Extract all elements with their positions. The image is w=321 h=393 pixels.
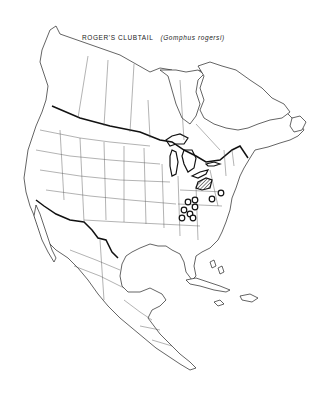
record-7 [190, 215, 196, 221]
hispaniola [240, 294, 258, 302]
cuba [186, 278, 230, 292]
record-2 [192, 197, 198, 203]
bahamas [210, 260, 224, 274]
map-title: ROGER'S CLUBTAIL (Gomphus rogersi) [82, 34, 225, 41]
north-america-map [0, 0, 321, 393]
record-1 [185, 199, 191, 205]
common-name: ROGER'S CLUBTAIL [82, 34, 153, 41]
record-6 [179, 215, 185, 221]
record-9 [218, 190, 224, 196]
lake-michigan [170, 150, 178, 176]
record-4 [181, 207, 187, 213]
scientific-name: (Gomphus rogersi) [160, 34, 224, 41]
record-8 [209, 196, 215, 202]
jamaica [214, 300, 224, 306]
record-3 [192, 204, 198, 210]
continent-outline [24, 26, 304, 370]
